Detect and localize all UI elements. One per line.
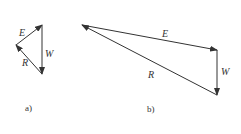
label-r-a: R bbox=[21, 57, 28, 68]
diagram-b: E W R b) bbox=[82, 25, 231, 114]
caption-b: b) bbox=[147, 104, 155, 114]
label-w-b: W bbox=[221, 66, 231, 77]
vector-triangle-figure: E W R a) E W R b) bbox=[0, 0, 241, 134]
vector-r-b bbox=[82, 25, 217, 95]
vector-e-b bbox=[82, 25, 217, 50]
caption-a: a) bbox=[25, 103, 32, 113]
label-w-a: W bbox=[45, 48, 55, 59]
diagram-a: E W R a) bbox=[16, 25, 55, 113]
label-e-a: E bbox=[18, 27, 25, 38]
label-r-b: R bbox=[147, 69, 154, 80]
vector-r-a bbox=[16, 45, 42, 74]
label-e-b: E bbox=[161, 28, 168, 39]
